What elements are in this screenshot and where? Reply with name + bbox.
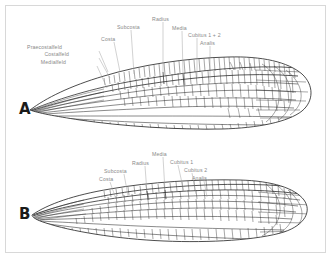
vein-label-costalfeld: Costalfeld [44,52,69,57]
panel-letter-a: A [19,100,31,118]
vein-label-cubitus-2: Cubitus 2 [184,168,207,173]
vein-label-costa: Costa [101,37,115,42]
vein-label-cubitus-1-2: Cubitus 1 + 2 [188,33,221,38]
vein-label-radius: Radius [152,17,169,22]
vein-label-media: Media [172,26,187,31]
vein-label-layer: PraecostalfeldCostalfeldMedialfeldCostaS… [0,0,333,260]
vein-label-analis: Analis [192,176,207,181]
vein-label-cubitus-1: Cubitus 1 [170,160,193,165]
wing-venation-figure: PraecostalfeldCostalfeldMedialfeldCostaS… [0,0,333,260]
vein-label-praecostalfeld: Praecostalfeld [27,45,62,50]
vein-label-radius: Radius [132,161,149,166]
vein-label-medialfeld: Medialfeld [41,60,66,65]
vein-label-subcosta: Subcosta [117,25,140,30]
panel-letter-b: B [19,205,30,223]
vein-label-analis: Analis [200,41,215,46]
vein-label-costa: Costa [99,177,113,182]
vein-label-subcosta: Subcosta [104,169,127,174]
vein-label-media: Media [152,152,167,157]
